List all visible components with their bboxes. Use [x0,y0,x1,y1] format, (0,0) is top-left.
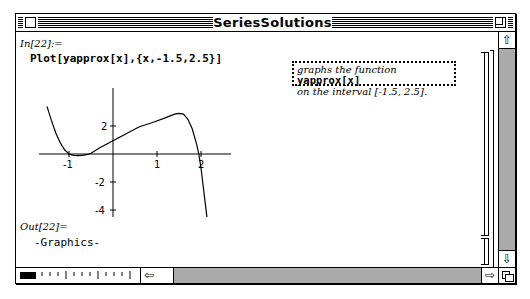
vertical-scroll-track[interactable] [499,48,515,251]
horizontal-scroll-thumb[interactable] [157,268,174,283]
text-line-1-code: yapprox[x] [297,74,360,86]
svg-text:1: 1 [154,159,160,170]
zoom-box-button[interactable] [495,17,506,28]
plot-graphic[interactable]: -1 1 2 2 -2 -4 [26,82,261,217]
notebook-window: SeriesSolutions In[22]:= Plot[yapprox[x]… [15,13,516,284]
vertical-scrollbar[interactable]: ⇧ ⇩ [498,32,515,267]
scroll-left-arrow-icon[interactable]: ⇦ [141,268,157,283]
output-label: Out[22]= [20,221,68,232]
svg-text:-2: -2 [95,177,105,188]
title-stripes-left [18,17,213,28]
horizontal-scroll-track[interactable] [157,268,482,283]
title-bar[interactable]: SeriesSolutions [16,14,515,32]
svg-text:-1: -1 [63,159,73,170]
output-group-bracket[interactable] [485,238,489,265]
input-code[interactable]: Plot[yapprox[x],{x,-1.5,2.5}] [30,52,222,65]
text-cell-comment[interactable]: graphs the function yapprox[x] on the in… [292,61,456,86]
svg-text:2: 2 [101,121,107,132]
text-line-1: graphs the function yapprox[x] [297,64,451,86]
scroll-right-arrow-icon[interactable]: ⇨ [481,268,498,283]
tick-labels: -1 1 2 2 -2 -4 [63,121,204,216]
group-bracket-outer[interactable] [490,50,494,267]
ruler-ticks [16,268,140,283]
output-value: -Graphics- [34,236,100,249]
horizontal-scrollbar[interactable]: ⇦ ⇨ [16,267,498,283]
scroll-up-arrow-icon[interactable]: ⇧ [499,32,515,48]
input-label: In[22]:= [20,38,63,49]
text-line-2: on the interval [-1.5, 2.5]. [297,86,451,97]
window-title: SeriesSolutions [213,14,332,31]
title-stripes-right [332,17,513,28]
close-box-button[interactable] [25,17,36,28]
resize-grow-box-icon[interactable] [498,267,515,283]
svg-text:-4: -4 [95,205,105,216]
group-bracket-inner[interactable] [485,52,489,236]
scroll-down-arrow-icon[interactable]: ⇩ [499,251,515,267]
magnification-ruler[interactable] [16,268,141,283]
notebook-content[interactable]: In[22]:= Plot[yapprox[x],{x,-1.5,2.5}] -… [16,32,498,267]
